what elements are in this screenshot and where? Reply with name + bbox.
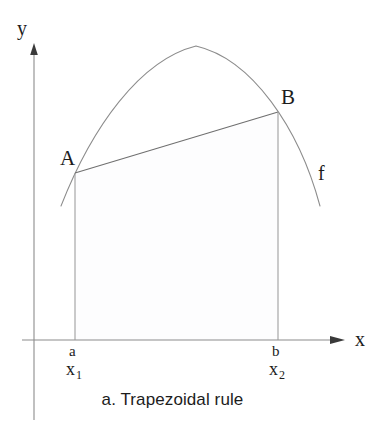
curve-label-f: f (318, 163, 325, 183)
tick-label-x1-base: x (66, 359, 75, 379)
point-label-a: A (60, 148, 75, 169)
trapezoid-region (75, 112, 278, 340)
y-axis-label: y (17, 18, 27, 38)
tick-label-a: a (69, 344, 76, 359)
x-axis-arrowhead-icon (330, 336, 345, 344)
tick-label-x1: x1 (66, 360, 82, 381)
tick-label-x2: x2 (269, 360, 285, 381)
figure-caption: a. Trapezoidal rule (0, 390, 345, 410)
x-axis-label: x (355, 329, 365, 349)
point-label-b: B (281, 87, 295, 108)
y-axis-arrowhead-icon (30, 43, 38, 55)
tick-label-x2-base: x (269, 359, 278, 379)
trapezoidal-rule-figure: y x A B f a b x1 x2 a. Trapezoidal rule (0, 0, 386, 435)
figure-canvas (0, 0, 386, 435)
tick-label-x2-subscript: 2 (278, 368, 285, 382)
tick-label-b: b (272, 344, 280, 359)
tick-label-x1-subscript: 1 (75, 368, 82, 382)
